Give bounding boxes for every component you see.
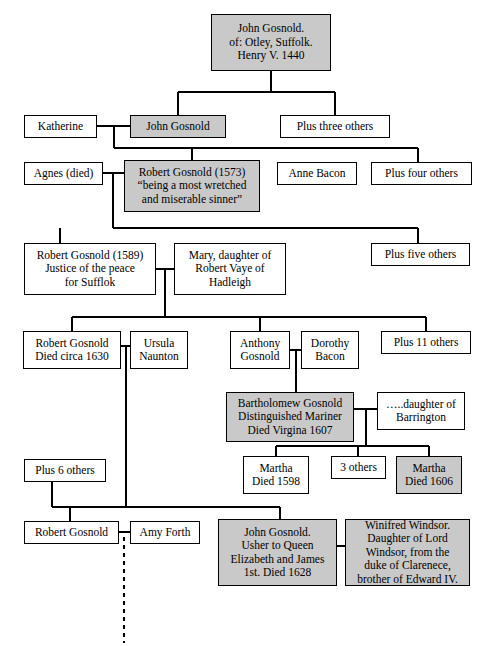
node-text-line: Robert Gosnold (1589) xyxy=(37,249,144,263)
john-gosnold-usher-box: John Gosnold.Usher to QueenElizabeth and… xyxy=(218,519,337,586)
node-text-line: John Gosnold. xyxy=(238,22,304,36)
node-text-line: of: Otley, Suffolk. xyxy=(229,36,312,50)
node-text-line: Usher to Queen xyxy=(241,539,313,553)
plus-11-others-box: Plus 11 others xyxy=(381,331,471,354)
node-text-line: Mary, daughter of xyxy=(189,249,272,263)
node-text-line: Died 1606 xyxy=(405,475,453,489)
node-text-line: Hadleigh xyxy=(209,276,251,290)
node-text-line: Daughter of Lord xyxy=(367,532,447,546)
plus-four-others-box: Plus four others xyxy=(371,162,472,185)
john-gosnold-otley-box: John Gosnold.of: Otley, Suffolk.Henry V.… xyxy=(211,14,331,71)
martha-died-1606-box: MarthaDied 1606 xyxy=(396,456,462,494)
node-text-line: Windsor, from the xyxy=(366,546,450,560)
node-text-line: Robert Gosnold xyxy=(35,337,108,351)
node-text-line: brother of Edward IV. xyxy=(357,573,458,587)
plus-6-others-box: Plus 6 others xyxy=(24,459,106,482)
node-text-line: Died 1598 xyxy=(252,475,300,489)
robert-gosnold-1573-box: Robert Gosnold (1573)“being a most wretc… xyxy=(124,160,260,212)
plus-five-others-box: Plus five others xyxy=(371,243,470,266)
agnes-died-box: Agnes (died) xyxy=(24,162,103,185)
mary-daughter-robert-vaye-box: Mary, daughter ofRobert Vaye ofHadleigh xyxy=(174,243,286,295)
node-text-line: “being a most wretched xyxy=(138,179,247,193)
node-text-line: Distinguished Mariner xyxy=(238,410,342,424)
node-text-line: Plus five others xyxy=(385,248,457,262)
robert-gosnold-1589-box: Robert Gosnold (1589)Justice of the peac… xyxy=(24,243,156,295)
node-text-line: for Sufflok xyxy=(65,276,116,290)
node-text-line: Agnes (died) xyxy=(34,167,94,181)
martha-died-1598-box: MarthaDied 1598 xyxy=(243,456,309,494)
node-text-line: Elizabeth and James xyxy=(231,553,325,567)
node-text-line: Gosnold xyxy=(241,350,280,364)
node-text-line: Naunton xyxy=(139,350,179,364)
node-text-line: Plus three others xyxy=(297,120,374,134)
node-text-line: Martha xyxy=(412,462,445,476)
dorothy-bacon-box: DorothyBacon xyxy=(301,331,359,369)
node-text-line: Plus 11 others xyxy=(394,336,459,350)
bartholomew-gosnold-box: Bartholomew GosnoldDistinguished Mariner… xyxy=(226,392,354,442)
node-text-line: Bacon xyxy=(315,350,344,364)
node-text-line: Robert Vaye of xyxy=(195,262,264,276)
node-text-line: Robert Gosnold xyxy=(35,526,108,540)
node-text-line: duke of Clarenece, xyxy=(364,559,451,573)
node-text-line: John Gosnold xyxy=(146,120,210,134)
robert-gosnold-died-circa-1630-box: Robert GosnoldDied circa 1630 xyxy=(23,331,121,369)
daughter-of-barrington-box: …..daughter ofBarrington xyxy=(377,392,465,430)
node-text-line: and miserable sinner” xyxy=(142,193,242,207)
node-text-line: Amy Forth xyxy=(140,526,191,540)
node-text-line: Bartholomew Gosnold xyxy=(238,397,342,411)
node-text-line: 3 others xyxy=(340,461,377,475)
node-text-line: Katherine xyxy=(38,120,83,134)
katherine-box: Katherine xyxy=(24,115,97,138)
node-text-line: Died Virgina 1607 xyxy=(247,424,332,438)
node-text-line: Anthony xyxy=(240,337,280,351)
node-text-line: Justice of the peace xyxy=(45,262,135,276)
anthony-gosnold-box: AnthonyGosnold xyxy=(230,331,290,369)
node-text-line: John Gosnold. xyxy=(244,526,310,540)
node-text-line: 1st. Died 1628 xyxy=(244,566,311,580)
plus-three-others-box: Plus three others xyxy=(280,115,390,138)
gosnold-family-tree-diagram: John Gosnold.of: Otley, Suffolk.Henry V.… xyxy=(0,0,485,646)
node-text-line: Henry V. 1440 xyxy=(238,49,305,63)
node-text-line: …..daughter of xyxy=(386,398,456,412)
amy-forth-box: Amy Forth xyxy=(130,521,200,544)
node-text-line: Ursula xyxy=(144,337,175,351)
node-text-line: Plus 6 others xyxy=(35,464,94,478)
node-text-line: Anne Bacon xyxy=(288,167,345,181)
robert-gosnold-bottom-box: Robert Gosnold xyxy=(24,521,119,544)
node-text-line: Barrington xyxy=(396,411,446,425)
node-text-line: Died circa 1630 xyxy=(35,350,108,364)
john-gosnold-box: John Gosnold xyxy=(130,115,226,138)
three-others-box: 3 others xyxy=(331,456,386,479)
node-text-line: Dorothy xyxy=(311,337,349,351)
anne-bacon-box: Anne Bacon xyxy=(277,162,357,185)
node-text-line: Winifred Windsor. xyxy=(365,519,450,533)
node-text-line: Martha xyxy=(259,462,292,476)
node-text-line: Plus four others xyxy=(385,167,458,181)
ursula-naunton-box: UrsulaNaunton xyxy=(130,331,188,369)
winifred-windsor-box: Winifred Windsor.Daughter of LordWindsor… xyxy=(345,519,470,586)
node-text-line: Robert Gosnold (1573) xyxy=(139,166,246,180)
